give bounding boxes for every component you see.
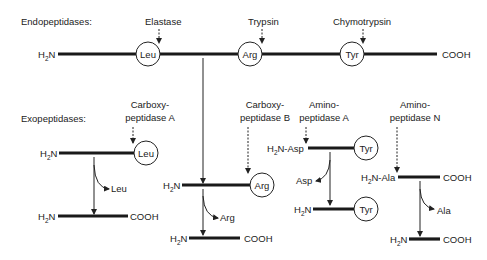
cpa-n-terminus: H2N	[40, 148, 58, 161]
apn-n-terminus: H2N-Ala	[361, 172, 396, 185]
protease-diagram: Endopeptidases: Elastase Trypsin Chymotr…	[0, 0, 487, 260]
cpb-n-terminus: H2N	[163, 180, 181, 193]
apa-product-n-terminus: H2N	[294, 204, 312, 217]
cpb-product-n-terminus: H2N	[170, 233, 188, 246]
carboxypeptidase-a-label-1: Carboxy-	[131, 99, 170, 110]
endopeptidases-heading: Endopeptidases:	[21, 16, 92, 27]
aminopeptidase-n-label-1: Amino-	[400, 99, 430, 110]
apa-product-residue: Tyr	[359, 204, 372, 215]
carboxypeptidase-b-label-2: peptidase B	[240, 112, 290, 123]
apa-residue: Tyr	[359, 143, 372, 154]
cpa-released-residue: Leu	[111, 183, 127, 194]
residue-arg: Arg	[243, 49, 258, 60]
cpb-residue: Arg	[255, 180, 270, 191]
trypsin-label: Trypsin	[248, 16, 279, 27]
cpa-product-c-terminus: COOH	[130, 211, 159, 222]
apa-released-residue: Asp	[296, 175, 312, 186]
cpb-released-residue: Arg	[220, 212, 235, 223]
residue-tyr: Tyr	[345, 49, 358, 60]
endo-c-terminus: COOH	[442, 49, 471, 60]
apa-n-terminus: H2N-Asp	[267, 143, 304, 156]
apn-release-arrow	[420, 189, 434, 209]
apn-c-terminus: COOH	[443, 172, 472, 183]
aminopeptidase-n-label-2: peptidase N	[390, 112, 441, 123]
exopeptidases-heading: Exopeptidases:	[21, 113, 86, 124]
elastase-label: Elastase	[145, 16, 181, 27]
cpa-residue: Leu	[138, 148, 154, 159]
apn-released-residue: Ala	[437, 205, 451, 216]
carboxypeptidase-a-label-2: peptidase A	[125, 112, 175, 123]
cpb-product-c-terminus: COOH	[244, 233, 273, 244]
apn-product-n-terminus: H2N	[390, 234, 408, 247]
aminopeptidase-a-label-2: peptidase A	[299, 112, 349, 123]
residue-leu: Leu	[140, 49, 156, 60]
aminopeptidase-a-label-1: Amino-	[309, 99, 339, 110]
cpa-product-n-terminus: H2N	[38, 211, 56, 224]
chymotrypsin-label: Chymotrypsin	[333, 16, 391, 27]
apa-release-arrow	[316, 160, 330, 181]
cpa-release-arrow	[94, 165, 109, 189]
cpb-release-arrow	[203, 196, 218, 218]
carboxypeptidase-b-label-1: Carboxy-	[246, 99, 285, 110]
endo-n-terminus: H2N	[38, 49, 56, 62]
apn-product-c-terminus: COOH	[443, 234, 472, 245]
